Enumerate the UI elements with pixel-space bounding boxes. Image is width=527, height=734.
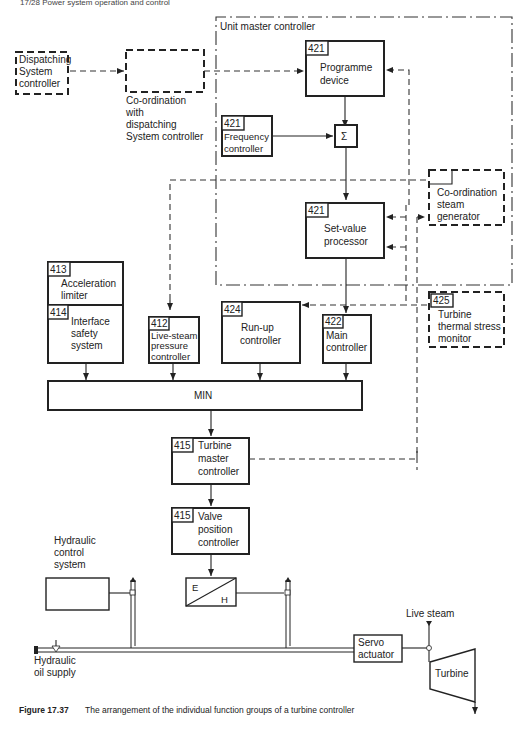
svg-text:Dispatching: Dispatching bbox=[19, 54, 71, 65]
svg-text:421: 421 bbox=[308, 205, 325, 216]
svg-text:Co-ordination: Co-ordination bbox=[126, 95, 186, 106]
svg-text:device: device bbox=[320, 75, 349, 86]
svg-text:controller: controller bbox=[19, 78, 61, 89]
run-up-controller-block: 424 Run-up controller bbox=[222, 302, 300, 363]
min-selector-block: MIN bbox=[48, 381, 362, 410]
set-value-processor-block: 421 Set-value processor bbox=[306, 203, 384, 258]
coordination-dispatching-block: Co-ordination with dispatching System co… bbox=[125, 50, 204, 142]
svg-text:412: 412 bbox=[151, 318, 168, 329]
svg-text:421: 421 bbox=[224, 118, 241, 129]
live-steam-pressure-controller-block: 412 Live-steam pressure controller bbox=[149, 317, 199, 363]
svg-text:Frequency: Frequency bbox=[224, 131, 269, 142]
svg-text:steam: steam bbox=[437, 199, 464, 210]
svg-text:Hydraulic: Hydraulic bbox=[34, 655, 76, 666]
svg-text:414: 414 bbox=[50, 307, 67, 318]
svg-text:controller: controller bbox=[198, 537, 240, 548]
svg-text:controller: controller bbox=[151, 351, 190, 362]
running-title: 17/28 Power system operation and control bbox=[20, 0, 170, 7]
svg-text:actuator: actuator bbox=[358, 649, 395, 660]
svg-text:Set-value: Set-value bbox=[324, 223, 367, 234]
svg-text:E: E bbox=[192, 582, 198, 593]
svg-text:controller: controller bbox=[240, 335, 282, 346]
valve-position-controller-block: 415 Valve position controller bbox=[172, 508, 249, 554]
thermal-stress-monitor-block: 425 Turbine thermal stress monitor bbox=[429, 292, 504, 347]
servo-actuator-block: Servo actuator bbox=[354, 635, 402, 662]
svg-text:controller: controller bbox=[224, 143, 263, 154]
caption-text: The arrangement of the individual functi… bbox=[85, 705, 354, 715]
svg-text:425: 425 bbox=[433, 295, 450, 306]
eh-converter-block: E H bbox=[186, 578, 236, 606]
svg-text:processor: processor bbox=[324, 236, 369, 247]
svg-text:System controller: System controller bbox=[126, 131, 204, 142]
interface-safety-system-block: 414 Interface safety system bbox=[48, 305, 123, 363]
svg-text:dispatching: dispatching bbox=[126, 119, 177, 130]
svg-text:position: position bbox=[198, 524, 232, 535]
svg-text:415: 415 bbox=[174, 440, 191, 451]
svg-text:413: 413 bbox=[50, 264, 67, 275]
svg-text:424: 424 bbox=[224, 304, 241, 315]
svg-text:MIN: MIN bbox=[194, 390, 212, 401]
svg-text:Turbine: Turbine bbox=[198, 440, 232, 451]
hydraulic-control-system-block: Hydraulic control system bbox=[46, 535, 109, 610]
svg-text:oil supply: oil supply bbox=[34, 667, 76, 678]
summing-junction: Σ bbox=[335, 125, 357, 147]
programme-device-block: 421 Programme device bbox=[306, 41, 384, 96]
live-steam-label: Live steam bbox=[406, 608, 454, 619]
feedback-to-programme bbox=[386, 70, 409, 205]
coordination-steam-generator-block: Co-ordination steam generator bbox=[429, 170, 504, 225]
svg-text:Σ: Σ bbox=[341, 131, 347, 142]
unit-master-label: Unit master controller bbox=[220, 21, 316, 32]
svg-text:Co-ordination: Co-ordination bbox=[437, 187, 497, 198]
frequency-controller-block: 421 Frequency controller bbox=[222, 116, 272, 156]
svg-text:Hydraulic: Hydraulic bbox=[54, 535, 96, 546]
svg-text:controller: controller bbox=[198, 466, 240, 477]
acceleration-limiter-block: 413 Acceleration limiter bbox=[48, 262, 123, 305]
turbine-master-controller-block: 415 Turbine master controller bbox=[172, 438, 249, 484]
svg-text:Valve: Valve bbox=[198, 511, 223, 522]
svg-text:control: control bbox=[54, 547, 84, 558]
svg-text:Turbine: Turbine bbox=[438, 309, 472, 320]
svg-text:Acceleration: Acceleration bbox=[61, 278, 116, 289]
svg-text:H: H bbox=[221, 594, 228, 605]
svg-text:Turbine: Turbine bbox=[435, 668, 469, 679]
svg-text:limiter: limiter bbox=[61, 290, 88, 301]
svg-text:generator: generator bbox=[437, 211, 480, 222]
svg-text:controller: controller bbox=[326, 342, 368, 353]
svg-text:421: 421 bbox=[308, 43, 325, 54]
svg-text:Run-up: Run-up bbox=[241, 322, 274, 333]
svg-text:System: System bbox=[19, 66, 52, 77]
turbine-controller-diagram: 17/28 Power system operation and control… bbox=[0, 0, 527, 734]
dispatching-system-controller: Dispatching System controller bbox=[16, 52, 71, 94]
svg-text:thermal stress: thermal stress bbox=[438, 321, 501, 332]
oil-supply-label: Hydraulic oil supply bbox=[34, 655, 76, 678]
svg-text:Interface: Interface bbox=[71, 316, 110, 327]
turbine-symbol: Turbine bbox=[430, 649, 475, 702]
svg-text:pressure: pressure bbox=[151, 340, 188, 351]
livesteam-feedback-line bbox=[170, 180, 427, 300]
svg-text:Programme: Programme bbox=[320, 62, 373, 73]
svg-text:master: master bbox=[198, 453, 229, 464]
svg-text:422: 422 bbox=[325, 316, 342, 327]
svg-text:system: system bbox=[71, 340, 103, 351]
svg-text:monitor: monitor bbox=[438, 333, 472, 344]
svg-text:Servo: Servo bbox=[358, 637, 385, 648]
svg-text:415: 415 bbox=[174, 510, 191, 521]
svg-text:with: with bbox=[125, 107, 144, 118]
figure-number: Figure 17.37 bbox=[19, 705, 69, 715]
svg-text:Main: Main bbox=[326, 330, 348, 341]
figure-caption: Figure 17.37 The arrangement of the indi… bbox=[19, 705, 354, 715]
svg-text:system: system bbox=[54, 559, 86, 570]
svg-text:safety: safety bbox=[71, 328, 98, 339]
main-controller-block: 422 Main controller bbox=[323, 315, 371, 363]
